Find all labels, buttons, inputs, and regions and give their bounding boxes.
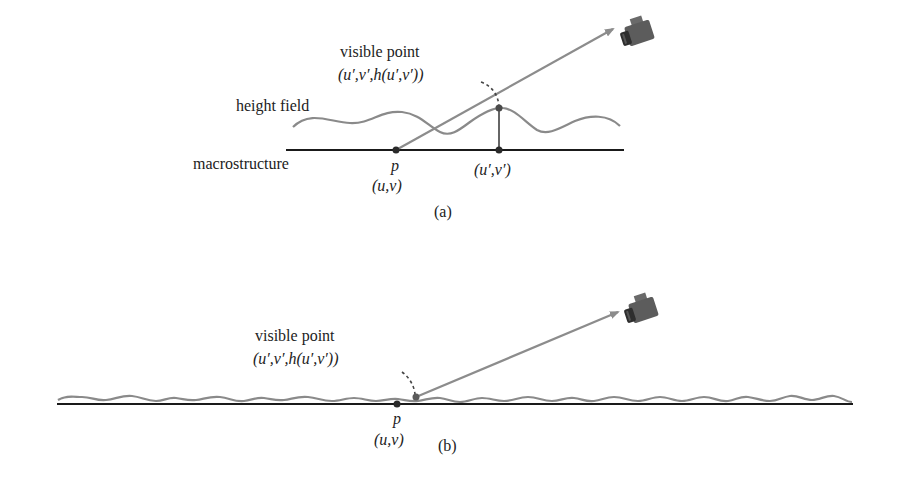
leader-dashed-arc xyxy=(402,372,415,394)
label-p: p xyxy=(392,410,401,428)
point-p-dot xyxy=(393,147,400,154)
panel-a: visible point (u′,v′,h(u′,v′)) height fi… xyxy=(193,16,655,221)
camera-icon xyxy=(624,293,659,324)
label-visible-point: visible point xyxy=(255,327,335,345)
height-field-diagram: visible point (u′,v′,h(u′,v′)) height fi… xyxy=(0,0,900,483)
label-p-coord: (u,v) xyxy=(372,177,402,195)
camera-icon xyxy=(620,16,655,47)
view-ray xyxy=(396,29,613,150)
point-p-dot xyxy=(394,401,401,408)
label-visible-point-coord: (u′,v′,h(u′,v′)) xyxy=(253,350,339,368)
label-height-field: height field xyxy=(236,97,309,115)
label-visible-point: visible point xyxy=(340,43,420,61)
label-p: p xyxy=(390,157,399,175)
label-macrostructure: macrostructure xyxy=(193,155,289,172)
leader-dashed-arc xyxy=(481,82,499,106)
height-field-curve xyxy=(293,108,620,134)
label-p-coord: (u,v) xyxy=(374,431,404,449)
panel-b: visible point (u′,v′,h(u′,v′)) p (u,v) (… xyxy=(57,293,853,455)
height-field-curve xyxy=(58,396,852,402)
visible-point-dot xyxy=(496,105,503,112)
caption-a: (a) xyxy=(434,203,452,221)
view-ray xyxy=(416,312,618,397)
caption-b: (b) xyxy=(438,437,457,455)
label-uv-prime: (u′,v′) xyxy=(474,161,511,179)
label-visible-point-coord: (u′,v′,h(u′,v′)) xyxy=(338,66,424,84)
visible-point-dot xyxy=(413,394,420,401)
point-uv-prime-dot xyxy=(496,147,503,154)
